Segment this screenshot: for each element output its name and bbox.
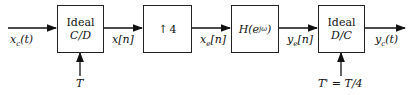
- cd-line1: Ideal: [67, 16, 95, 29]
- filter-exponent: jω: [259, 23, 267, 36]
- cd-period-label: T: [76, 77, 83, 90]
- filter-block: H(ejω): [231, 5, 279, 53]
- ye-signal-label: ye[n]: [287, 33, 313, 48]
- input-signal-label: xc(t): [10, 33, 33, 48]
- upsample-factor: 4: [170, 23, 177, 36]
- x-signal-label: x[n]: [112, 33, 134, 46]
- ideal-dc-block: Ideal D/C: [318, 5, 365, 53]
- output-signal-label: yc(t): [375, 33, 398, 48]
- dc-line1: Ideal: [328, 16, 356, 29]
- filter-label: H(e: [239, 23, 259, 36]
- upsampler-block: ↑ 4: [143, 5, 192, 53]
- up-arrow-icon: ↑: [158, 23, 167, 36]
- ideal-cd-block: Ideal C/D: [57, 5, 104, 53]
- filter-close: ): [267, 23, 271, 36]
- cd-line2: C/D: [70, 29, 91, 42]
- xe-signal-label: xe[n]: [200, 33, 226, 48]
- dc-line2: D/C: [331, 29, 352, 42]
- dc-period-label: T' = T/4: [318, 77, 363, 90]
